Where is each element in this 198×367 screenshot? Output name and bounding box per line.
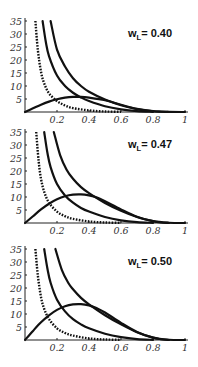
x-tick-label: 1 [182,114,188,125]
y-tick-label: 25 [9,42,22,53]
y-tick-label: 5 [16,205,22,216]
y-tick-label: 15 [10,179,22,190]
panel-label: wL= 0.47 [127,138,172,153]
y-tick-label: 35 [10,127,22,138]
figure: 51015202530350.20.40.60.81 wL= 0.40 5101… [0,0,198,367]
y-tick-label: 10 [10,81,22,92]
y-tick-label: 10 [10,309,22,320]
x-tick-label: 0.6 [113,342,128,353]
curve-dashed [35,21,121,112]
x-tick-label: 1 [182,342,188,353]
curve-hump [25,194,185,223]
y-tick-label: 5 [16,94,22,105]
panel-label: wL= 0.50 [127,255,172,270]
y-tick-label: 35 [10,244,22,255]
y-tick-label: 20 [9,166,22,177]
y-tick-label: 35 [10,16,22,27]
x-tick-label: 0.6 [113,225,128,236]
x-tick-label: 0.4 [81,342,96,353]
y-tick-label: 20 [9,283,22,294]
panel-2: 51015202530350.20.40.60.81 wL= 0.47 [9,127,188,237]
y-tick-label: 25 [9,270,22,281]
panel-label: wL= 0.40 [127,27,172,42]
x-tick-label: 0.2 [49,114,64,125]
x-tick-label: 1 [182,225,188,236]
x-tick-label: 0.6 [113,114,128,125]
y-tick-label: 15 [10,296,22,307]
x-tick-label: 0.4 [81,225,96,236]
y-tick-label: 20 [9,55,22,66]
curve-dashed [36,132,121,223]
y-tick-label: 30 [10,257,22,268]
y-tick-label: 30 [10,140,22,151]
x-tick-label: 0.2 [49,225,64,236]
y-tick-label: 25 [9,153,22,164]
x-tick-label: 0.2 [49,342,64,353]
y-tick-label: 10 [10,192,22,203]
y-tick-label: 5 [16,322,22,333]
x-tick-label: 0.8 [145,114,160,125]
x-tick-label: 0.4 [81,114,96,125]
x-tick-label: 0.8 [145,342,160,353]
y-tick-label: 30 [10,29,22,40]
panel-3: 51015202530350.20.40.60.81 wL= 0.50 [9,244,188,354]
panel-1: 51015202530350.20.40.60.81 wL= 0.40 [9,16,188,126]
x-tick-label: 0.8 [145,225,160,236]
y-tick-label: 15 [10,68,22,79]
